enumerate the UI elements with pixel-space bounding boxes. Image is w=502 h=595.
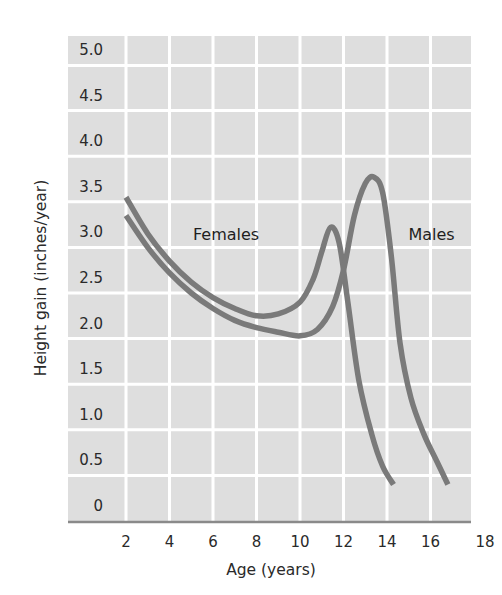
- y-tick-label: 3.5: [79, 178, 103, 196]
- x-tick-label: 6: [208, 533, 218, 551]
- males-series-label: Males: [408, 225, 454, 244]
- y-axis-title: Height gain (inches/year): [32, 180, 50, 377]
- plot-background: [68, 36, 471, 521]
- x-tick-label: 8: [252, 533, 262, 551]
- y-tick-label: 0.5: [79, 451, 103, 469]
- x-tick-label: 18: [475, 533, 494, 551]
- x-axis-ticks: 24681012141618: [121, 533, 494, 551]
- y-tick-label: 1.0: [79, 406, 103, 424]
- y-tick-label: 4.5: [79, 87, 103, 105]
- y-tick-label: 5.0: [79, 41, 103, 59]
- females-series-label: Females: [193, 225, 259, 244]
- y-tick-label: 3.0: [79, 223, 103, 241]
- y-tick-label: 1.5: [79, 360, 103, 378]
- y-tick-label: 2.5: [79, 269, 103, 287]
- x-tick-label: 10: [290, 533, 309, 551]
- chart: 00.51.01.52.02.53.03.54.04.55.0 24681012…: [0, 0, 502, 595]
- x-tick-label: 2: [121, 533, 131, 551]
- x-tick-label: 4: [165, 533, 175, 551]
- y-tick-label: 4.0: [79, 132, 103, 150]
- x-tick-label: 16: [421, 533, 440, 551]
- x-tick-label: 14: [377, 533, 396, 551]
- y-tick-label: 2.0: [79, 315, 103, 333]
- x-axis-title: Age (years): [226, 561, 316, 579]
- x-tick-label: 12: [334, 533, 353, 551]
- y-tick-label: 0: [93, 497, 103, 515]
